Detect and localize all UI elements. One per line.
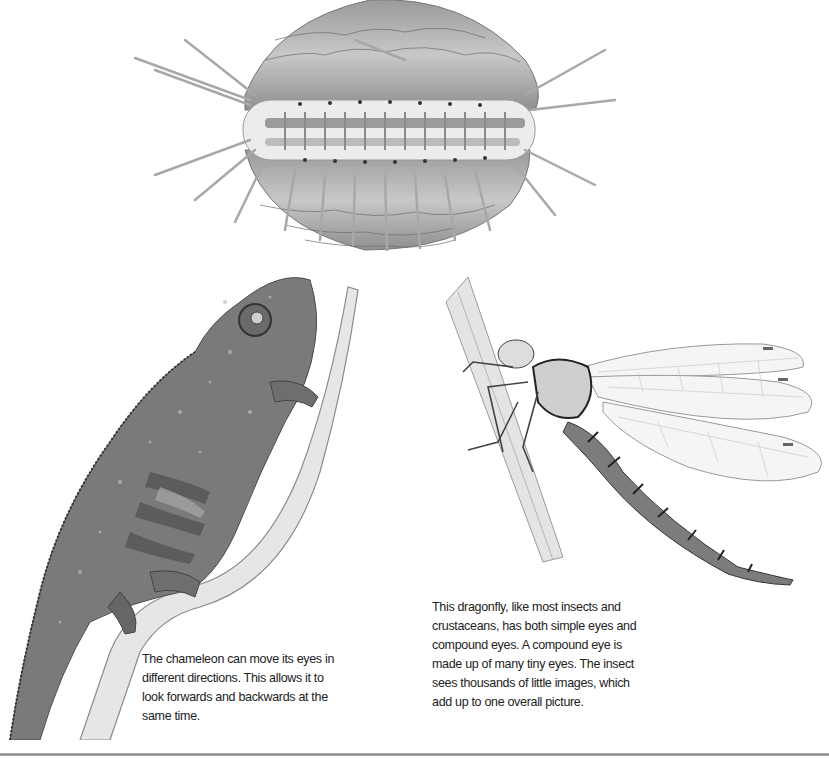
scallop-illustration [125, 0, 625, 258]
caption-line: sees thousands of little images, which [432, 673, 690, 692]
dragonfly-drawing [438, 272, 829, 597]
dragonfly-caption: This dragonfly, like most insects and cr… [432, 597, 690, 711]
caption-line: compound eyes. A compound eye is [432, 635, 690, 654]
scallop-drawing [125, 0, 625, 258]
chameleon-caption: The chameleon can move its eyes in diffe… [142, 649, 381, 725]
page-divider [0, 753, 829, 756]
caption-line: The chameleon can move its eyes in [142, 649, 381, 668]
caption-line: add up to one overall picture. [432, 692, 690, 711]
caption-line: This dragonfly, like most insects and [432, 597, 690, 616]
caption-line: same time. [142, 706, 381, 725]
caption-line: crustaceans, has both simple eyes and [432, 616, 690, 635]
caption-line: look forwards and backwards at the [142, 687, 381, 706]
dragonfly-illustration [438, 272, 829, 597]
caption-line: made up of many tiny eyes. The insect [432, 654, 690, 673]
caption-line: different directions. This allows it to [142, 668, 381, 687]
